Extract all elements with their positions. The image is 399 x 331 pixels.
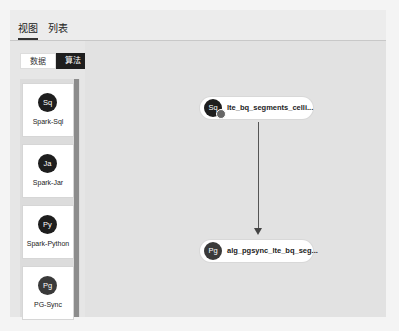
data-toggle-button[interactable]: 数据: [20, 53, 56, 69]
component-palette: Sq Spark-Sql Ja Spark-Jar Py Spark-Pytho…: [20, 79, 80, 317]
spark-python-icon: Py: [38, 215, 57, 234]
status-badge-icon: [216, 109, 226, 119]
arrow-down-icon: [254, 228, 262, 235]
workflow-panel: 视图 列表 数据 算法 Sq Spark-Sql Ja Spark-Jar Py…: [10, 10, 386, 317]
palette-item-spark-jar[interactable]: Ja Spark-Jar: [22, 144, 74, 198]
tab-list[interactable]: 列表: [48, 20, 68, 35]
palette-item-spark-sql[interactable]: Sq Spark-Sql: [22, 83, 74, 137]
workflow-node-spark-sql[interactable]: Sq lte_bq_segments_celli...: [200, 97, 313, 119]
palette-item-label: Spark-Sql: [23, 118, 73, 125]
view-tabs: 视图 列表: [10, 10, 386, 41]
tab-view[interactable]: 视图: [18, 20, 38, 35]
spark-sql-icon: Sq: [38, 93, 57, 112]
spark-jar-icon: Ja: [38, 154, 57, 173]
pg-sync-icon: Pg: [204, 242, 222, 260]
pg-sync-icon: Pg: [38, 276, 57, 295]
category-toggle: 数据 算法: [20, 53, 90, 69]
palette-scrollbar[interactable]: [74, 79, 79, 317]
workflow-node-pg-sync[interactable]: Pg alg_pgsync_lte_bq_seg...: [200, 240, 313, 262]
node-label: lte_bq_segments_celli...: [227, 97, 313, 119]
palette-item-label: PG-Sync: [23, 301, 73, 308]
palette-item-label: Spark-Python: [23, 240, 73, 247]
palette-item-spark-python[interactable]: Py Spark-Python: [22, 205, 74, 259]
node-label: alg_pgsync_lte_bq_seg...: [227, 240, 318, 262]
workflow-canvas[interactable]: [85, 41, 386, 317]
palette-item-label: Spark-Jar: [23, 179, 73, 186]
edge-connector[interactable]: [258, 122, 259, 232]
palette-item-pg-sync[interactable]: Pg PG-Sync: [22, 266, 74, 320]
